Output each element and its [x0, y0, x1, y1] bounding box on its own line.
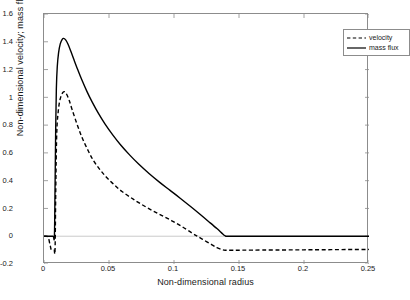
x-tick-label: 0.25	[348, 265, 388, 273]
y-tick-label: 0	[0, 232, 13, 240]
y-tick-label: 0.2	[0, 205, 13, 213]
x-tick-label: 0.1	[153, 265, 193, 273]
y-tick-label: 1.4	[0, 38, 13, 46]
legend-label-mass-flux: mass flux	[369, 44, 399, 52]
legend: velocity mass flux	[343, 29, 410, 56]
plot-canvas	[44, 14, 369, 264]
series-line-velocity	[44, 92, 369, 254]
y-tick-label: 1	[0, 94, 13, 102]
x-tick-label: 0	[23, 265, 63, 273]
legend-item-mass-flux: mass flux	[347, 43, 405, 52]
y-tick-label: 0.8	[0, 121, 13, 129]
y-tick-label: 1.2	[0, 66, 13, 74]
tick-marks	[44, 14, 369, 264]
y-axis-label: Non-dimensional velocity; mass flux	[15, 0, 25, 163]
legend-item-velocity: velocity	[347, 33, 405, 42]
x-tick-label: 0.15	[218, 265, 258, 273]
legend-label-velocity: velocity	[369, 34, 392, 42]
y-tick-label: 1.6	[0, 10, 13, 18]
legend-dashed-line-icon	[347, 34, 366, 42]
series-line-mass-flux	[44, 38, 369, 239]
y-tick-label: -0.2	[0, 260, 13, 268]
y-tick-label: 0.6	[0, 149, 13, 157]
legend-solid-line-icon	[347, 44, 366, 52]
x-tick-label: 0.2	[283, 265, 323, 273]
y-tick-label: 0.4	[0, 177, 13, 185]
x-axis-label: Non-dimensional radius	[43, 277, 368, 287]
x-tick-label: 0.05	[88, 265, 128, 273]
plot-area: velocity mass flux	[43, 13, 368, 263]
